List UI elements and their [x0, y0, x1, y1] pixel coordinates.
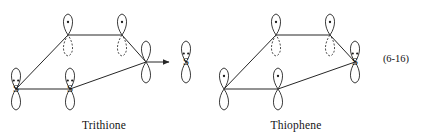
orbital-lobe-lower-c-bottom-mid [273, 89, 282, 110]
electron-dot-c-top-right [329, 21, 331, 23]
orbital-diagram-figure: SSSS Trithione Thiophene (6-16) [0, 0, 422, 136]
orbital-lobe-upper-c-top-right [325, 14, 334, 35]
bond-line [16, 35, 68, 89]
atom-label-s-bottom-left: S [13, 82, 19, 94]
bond-line [278, 62, 355, 89]
bond-line [224, 35, 276, 89]
equation-number: (6-16) [383, 53, 410, 65]
orbital-lobe-upper-c-top-left [271, 14, 280, 35]
lone-pair-dot-s-exocyclic-1 [187, 52, 189, 54]
lone-pair-dot-s-right-1 [356, 52, 358, 54]
caption-thiophene: Thiophene [271, 119, 322, 132]
orbital-lobe-upper-c-bottom-mid [273, 68, 282, 89]
electron-dot-c-top-left [67, 21, 69, 23]
electron-dot-c-bottom-left [223, 75, 225, 77]
orbital-lobe-lower-c-right [141, 62, 150, 83]
lone-pair-dot-s-bottom-left-1 [17, 79, 19, 81]
orbital-lobe-lower-c-bottom-left [219, 89, 228, 110]
orbital-lobe-upper-c-top-right [117, 14, 126, 35]
electron-dot-c-bottom-mid [277, 75, 279, 77]
bond-line [70, 62, 146, 89]
atom-label-s-exocyclic: S [183, 55, 189, 67]
caption-trithione: Trithione [82, 119, 126, 131]
orbital-lobe-upper-c-top-left [63, 14, 72, 35]
atom-label-s-bottom-mid: S [67, 82, 73, 94]
lone-pair-dot-s-right-0 [352, 52, 354, 54]
lone-pair-dot-s-bottom-left-0 [13, 79, 15, 81]
lone-pair-dot-s-bottom-mid-0 [67, 79, 69, 81]
lone-pair-dot-s-exocyclic-0 [183, 52, 185, 54]
atom-label-s-right: S [352, 55, 358, 67]
lone-pair-dot-s-bottom-mid-1 [71, 79, 73, 81]
orbital-diagram-svg: SSSS Trithione Thiophene (6-16) [0, 0, 422, 136]
electron-dot-c-top-left [275, 21, 277, 23]
electron-dot-c-top-right [121, 21, 123, 23]
